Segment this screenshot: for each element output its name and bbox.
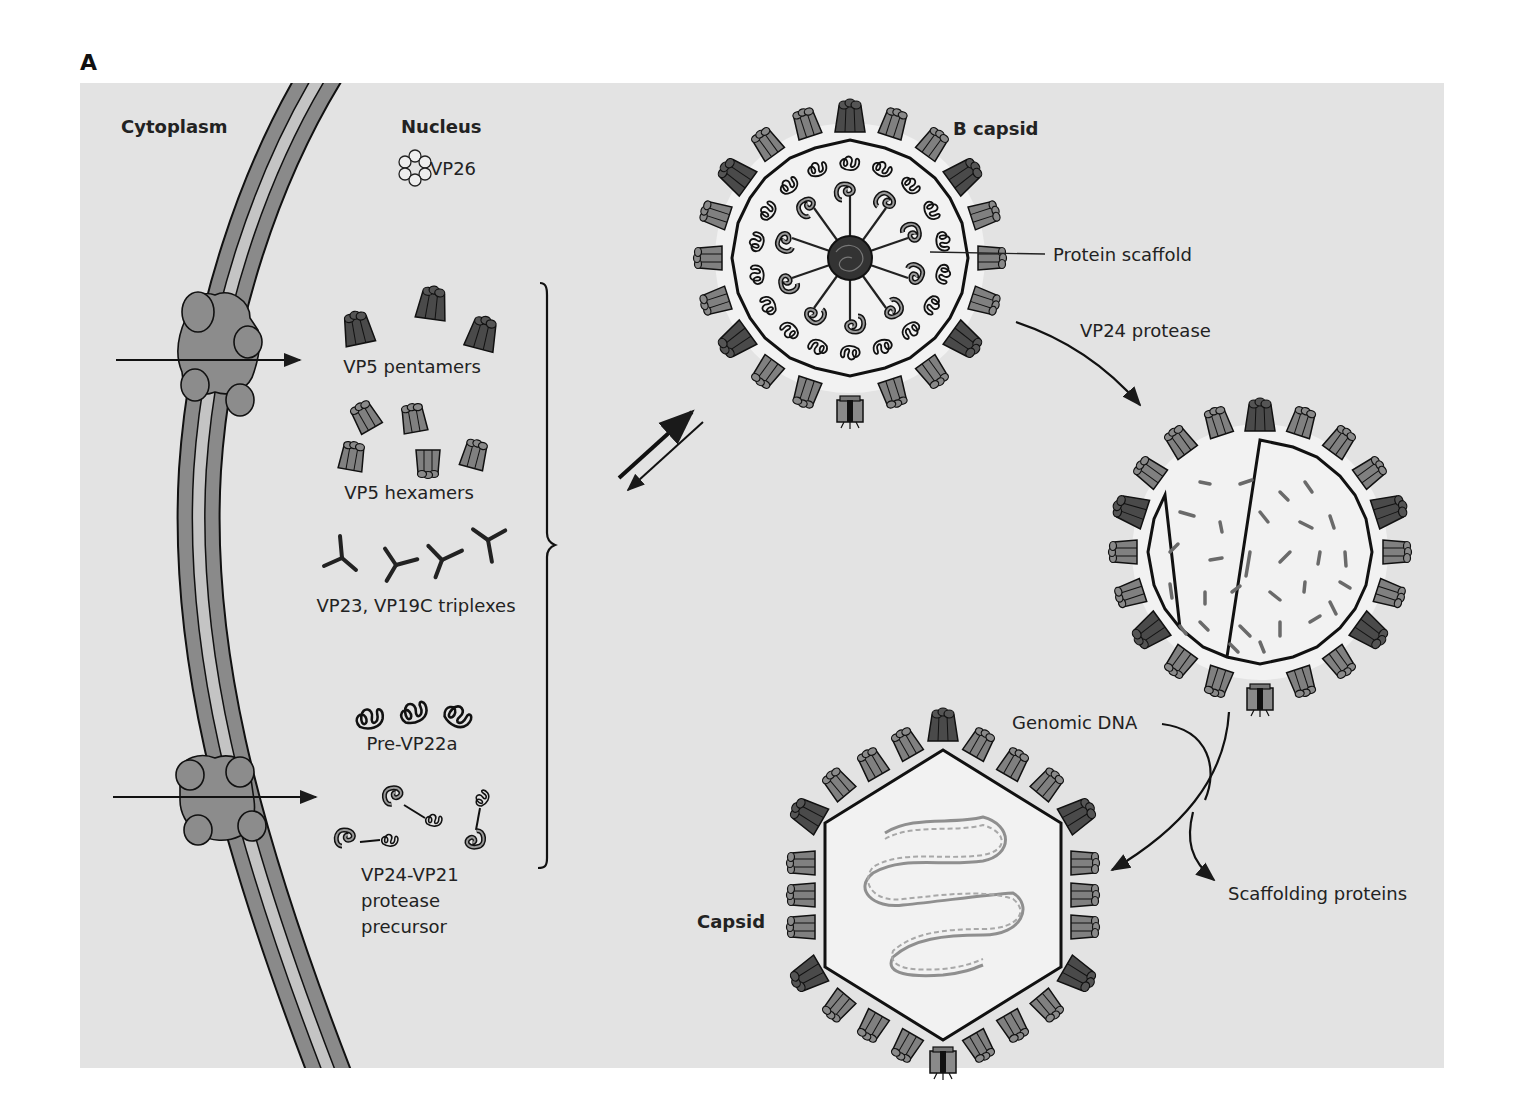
pre-vp22a-label: Pre-VP22a [366,733,457,754]
protease-precursor-label: VP24-VP21 protease precursor [361,862,459,940]
triplexes-icon [324,526,508,580]
b-capsid-diagram [694,99,1007,429]
genomic-dna-label: Genomic DNA [1012,712,1137,733]
pre-vp22a-icon [354,698,473,731]
vp5-pentamers-icon [339,284,501,352]
vp26-label: VP26 [430,158,476,179]
vp24-protease-label: VP24 protease [1080,320,1211,341]
nuclear-envelope [199,60,340,1100]
nuclear-pore-bottom [176,756,266,845]
vp26-icon [399,150,431,186]
vp5-hexamers-icon [338,398,490,479]
protease-precursor-line3: precursor [361,914,459,940]
scaffolding-proteins-label: Scaffolding proteins [1228,883,1407,904]
mature-capsid-diagram [785,708,1101,1080]
capsid-to-mature-arrow [1112,712,1229,870]
protease-precursor-line2: protease [361,888,459,914]
protein-scaffold-label: Protein scaffold [1053,244,1192,265]
grouping-bracket [538,283,555,868]
vp5-pentamers-label: VP5 pentamers [343,356,481,377]
capsid-label: Capsid [697,911,765,932]
protease-precursor-icon [336,787,491,849]
protease-precursor-line1: VP24-VP21 [361,862,459,888]
equilibrium-arrows-icon [619,412,703,490]
b-capsid-label: B capsid [953,118,1038,139]
cleaved-capsid-diagram [1109,398,1412,717]
cytoplasm-label: Cytoplasm [121,116,228,137]
triplexes-label: VP23, VP19C triplexes [316,595,515,616]
vp5-hexamers-label: VP5 hexamers [344,482,474,503]
diagram-canvas [0,0,1515,1117]
nucleus-label: Nucleus [401,116,481,137]
scaffolding-release-arrow [1190,812,1214,880]
